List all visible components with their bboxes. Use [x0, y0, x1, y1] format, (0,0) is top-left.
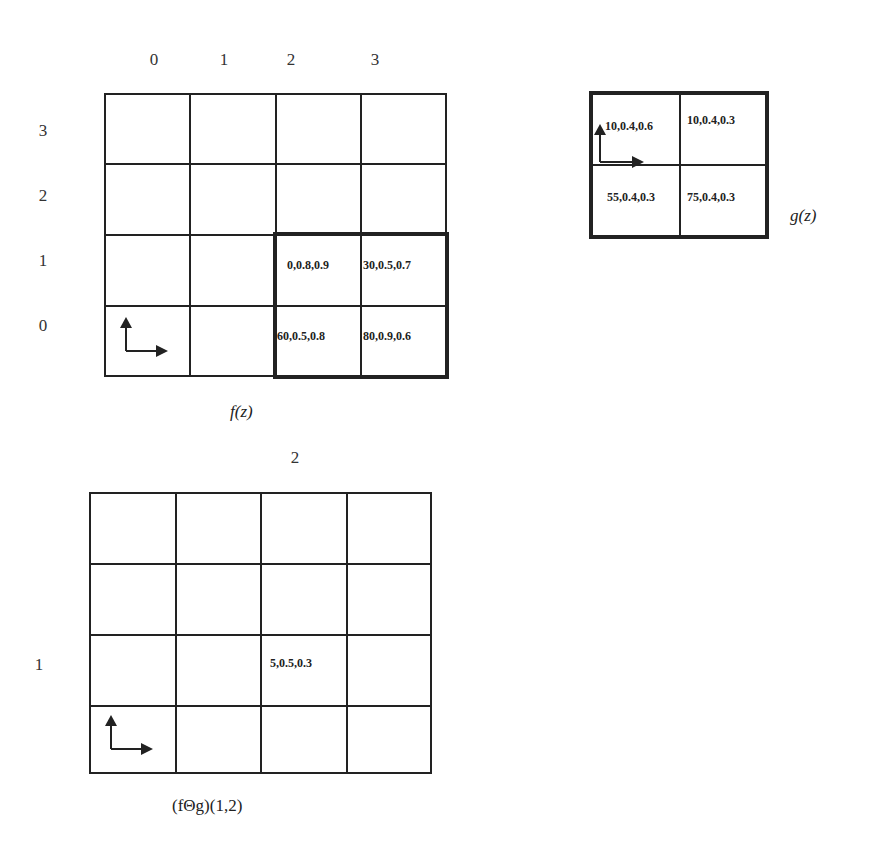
result-col-label: 2 [285, 448, 305, 468]
result-row-label: 1 [29, 655, 49, 675]
f-row-label-3: 3 [33, 121, 53, 141]
result-cell [346, 492, 432, 565]
g-cell-value-r0c0: 55,0.4,0.3 [607, 190, 655, 205]
origin-axes-icon [120, 317, 170, 359]
f-row-label-2: 2 [33, 186, 53, 206]
g-cell-value-r0c1: 75,0.4,0.3 [687, 190, 735, 205]
f-cell [104, 163, 191, 236]
f-cell: 30,0.5,0.7 [360, 234, 447, 307]
result-cell [175, 563, 262, 636]
f-cell [275, 163, 362, 236]
f-col-label-0: 0 [144, 50, 164, 70]
f-row-label-0: 0 [33, 316, 53, 336]
result-cell [89, 563, 177, 636]
f-row-label-1: 1 [33, 251, 53, 271]
f-cell [360, 163, 447, 236]
result-cell-value-r1c2: 5,0.5,0.3 [270, 656, 312, 671]
g-cell: 75,0.4,0.3 [679, 164, 767, 237]
g-cell: 55,0.4,0.3 [591, 164, 681, 237]
f-cell [275, 93, 362, 165]
f-cell-value-r1c3: 30,0.5,0.7 [363, 258, 411, 273]
result-cell [346, 705, 432, 774]
result-cell [260, 563, 348, 636]
g-grid-caption: g(z) [790, 206, 816, 226]
f-cell: 0,0.8,0.9 [275, 234, 362, 307]
g-cell-value-r1c1: 10,0.4,0.3 [687, 113, 735, 128]
result-cell [175, 705, 262, 774]
f-col-label-3: 3 [365, 50, 385, 70]
f-col-label-2: 2 [281, 50, 301, 70]
f-cell [189, 305, 277, 377]
result-cell [346, 563, 432, 636]
g-cell: 10,0.4,0.3 [679, 93, 767, 166]
result-cell [346, 634, 432, 707]
origin-axes-icon [594, 124, 646, 168]
result-cell [89, 492, 177, 565]
result-cell [260, 492, 348, 565]
result-cell-origin [89, 705, 177, 774]
f-cell-value-r0c2: 60,0.5,0.8 [277, 329, 325, 344]
f-cell [189, 163, 277, 236]
f-cell [104, 234, 191, 307]
f-cell [104, 93, 191, 165]
f-grid-caption: f(z) [230, 402, 253, 422]
f-cell [189, 234, 277, 307]
result-cell [175, 634, 262, 707]
f-cell-origin [104, 305, 191, 377]
f-cell-value-r1c2: 0,0.8,0.9 [287, 258, 329, 273]
f-cell: 60,0.5,0.8 [275, 305, 362, 377]
f-cell [189, 93, 277, 165]
result-cell [175, 492, 262, 565]
result-grid-caption: (fΘg)(1,2) [172, 796, 242, 816]
f-cell [360, 93, 447, 165]
result-cell [89, 634, 177, 707]
origin-axes-icon [105, 715, 155, 757]
result-cell: 5,0.5,0.3 [260, 634, 348, 707]
f-cell-value-r0c3: 80,0.9,0.6 [363, 329, 411, 344]
result-cell [260, 705, 348, 774]
f-col-label-1: 1 [214, 50, 234, 70]
f-cell: 80,0.9,0.6 [360, 305, 447, 377]
